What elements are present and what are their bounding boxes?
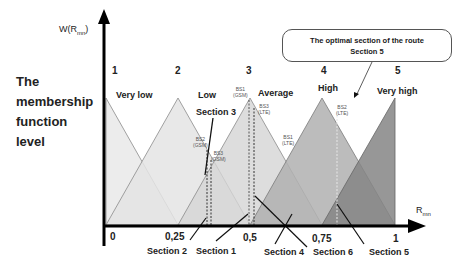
term-number-1: 1 <box>112 65 118 76</box>
side-title-line: function <box>16 112 106 132</box>
bs1-lte-label: BS1(LTE) <box>282 134 294 146</box>
bs1-gsm-label: BS1(GSM) <box>233 86 248 98</box>
y-axis-label: W(Rmn) <box>59 24 88 36</box>
callout-arrowhead <box>354 92 359 98</box>
bs3-lte-label: BS3(LTE) <box>258 103 270 115</box>
x-tick-025: 0,25 <box>165 231 184 242</box>
callout-pointer <box>357 62 372 94</box>
term-number-2: 2 <box>175 65 181 76</box>
side-title-line: membership <box>16 92 106 112</box>
term-number-4: 4 <box>321 65 327 76</box>
term-low: Low <box>198 90 216 100</box>
term-high: High <box>318 83 338 93</box>
side-title-line: The <box>16 72 106 92</box>
term-number-5: 5 <box>395 65 401 76</box>
x-tick-0: 0 <box>110 231 116 242</box>
section-1-label: Section 1 <box>196 246 236 256</box>
section-5-label: Section 5 <box>369 247 409 257</box>
bs3-gsm-label: BS3(GSM) <box>211 150 226 162</box>
section-6-label: Section 6 <box>313 247 353 257</box>
section-4-label: Section 4 <box>264 247 304 257</box>
x-tick-075: 0,75 <box>312 233 331 244</box>
section-3-label: Section 3 <box>196 107 236 117</box>
bs2-lte-label: BS2(LTE) <box>336 104 348 116</box>
y-axis-arrowhead <box>98 9 110 24</box>
side-title: The membership function level <box>16 72 106 152</box>
x-axis-label: Rmn <box>416 205 431 217</box>
callout-title: The optimal section of the route <box>283 35 451 46</box>
term-number-3: 3 <box>246 65 252 76</box>
x-tick-1: 1 <box>393 233 399 244</box>
bs2-gsm-label: BS2(GSM) <box>193 136 208 148</box>
term-average: Average <box>258 88 293 98</box>
term-very-high: Very high <box>377 86 418 96</box>
callout-section: Section 5 <box>283 46 451 57</box>
x-axis-arrowhead <box>408 219 426 233</box>
side-title-line: level <box>16 132 106 152</box>
section-2-label: Section 2 <box>147 246 187 256</box>
optimal-section-callout: The optimal section of the route Section… <box>282 29 452 62</box>
term-very-low: Very low <box>116 90 153 100</box>
x-tick-05: 0,5 <box>243 232 257 243</box>
